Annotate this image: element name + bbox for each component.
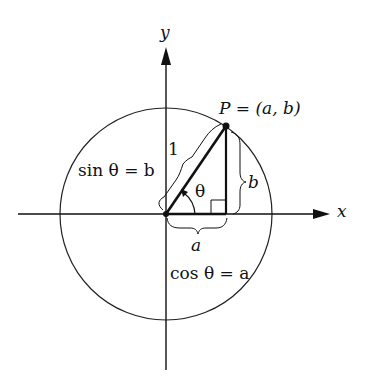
unit-circle-diagram: y x P = (a, b) 1 θ b a sin θ = b cos θ =… (0, 0, 375, 385)
sin-label: sin θ = b (78, 162, 155, 179)
opposite-label: b (248, 174, 259, 191)
adjacent-brace (167, 218, 227, 234)
x-axis-label: x (337, 203, 347, 220)
x-axis-arrow-icon (313, 209, 330, 219)
adjacent-label: a (191, 237, 201, 254)
cos-label: cos θ = a (170, 265, 249, 282)
hypotenuse-label: 1 (168, 141, 179, 158)
right-angle-marker (211, 200, 226, 214)
y-axis-label: y (160, 24, 170, 41)
diagram-canvas (0, 0, 375, 385)
hypotenuse-brace (159, 124, 221, 210)
angle-arc (184, 193, 195, 214)
point-p (223, 123, 230, 130)
y-axis-arrow-icon (161, 47, 171, 65)
point-label: P = (a, b) (219, 100, 301, 117)
angle-label: θ (195, 183, 205, 200)
opposite-brace (231, 132, 246, 214)
origin-point (163, 211, 169, 217)
